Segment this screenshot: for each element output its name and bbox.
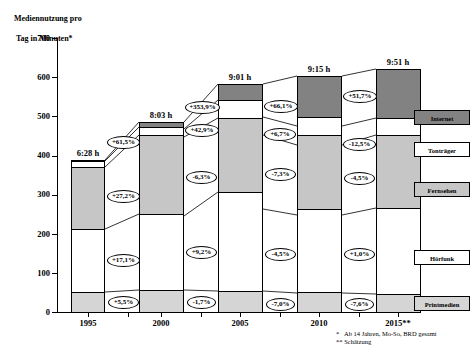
y-tick-label-100: 100 bbox=[18, 269, 50, 277]
x-tick-2005 bbox=[240, 313, 241, 317]
bubble-printmedien-2000-2005: -1,7% bbox=[187, 296, 216, 309]
bar-2005-segment-hoerfunk bbox=[218, 192, 263, 292]
x-tick-2015 bbox=[398, 313, 399, 317]
x-axis-label-2000: 2000 bbox=[131, 318, 191, 328]
y-tick-500 bbox=[52, 116, 57, 117]
bar-2005-segment-tontraeger bbox=[218, 100, 263, 119]
footnote-dstar-text: Schätzung bbox=[344, 338, 371, 345]
bubble-hoerfunk-2010-2015: +1,0% bbox=[344, 248, 375, 261]
bar-2010-segment-internet bbox=[297, 76, 342, 118]
plot-area: 1995 2000 2005 2010 2015** 6:28 h 8:03 h… bbox=[57, 38, 410, 313]
y-axis-line bbox=[57, 38, 58, 313]
y-tick-label-600: 600 bbox=[18, 73, 50, 81]
bar-2000-segment-printmedien bbox=[139, 290, 184, 313]
bar-2000 bbox=[139, 38, 184, 313]
total-label-2005: 9:01 h bbox=[210, 72, 270, 82]
x-tick-minor-2 bbox=[201, 313, 202, 317]
bar-2000-segment-hoerfunk bbox=[139, 214, 184, 291]
bubble-tontraeger-2000-2005: +42,9% bbox=[185, 124, 219, 137]
x-tick-minor-4 bbox=[359, 313, 360, 317]
legend-item-tontraeger[interactable]: Tonträger bbox=[414, 142, 470, 157]
bar-2000-segment-fernsehen bbox=[139, 135, 184, 215]
total-label-2010: 9:15 h bbox=[289, 64, 349, 74]
bar-2010-segment-fernsehen bbox=[297, 135, 342, 210]
footnote-dstar-marker: ** bbox=[336, 338, 343, 345]
y-tick-100 bbox=[52, 273, 57, 274]
y-tick-300 bbox=[52, 195, 57, 196]
y-tick-label-700: 700 bbox=[18, 34, 50, 42]
bubble-hoerfunk-2000-2005: +9,2% bbox=[186, 246, 217, 259]
legend-item-internet[interactable]: Internet bbox=[414, 110, 470, 125]
bar-1995 bbox=[71, 38, 105, 313]
footnote-single-star: *Ab 14 Jahren, Mo-So, BRD gesamt bbox=[336, 330, 437, 338]
x-tick-2000 bbox=[161, 313, 162, 317]
footnote-star-text: Ab 14 Jahren, Mo-So, BRD gesamt bbox=[344, 330, 437, 337]
x-axis-label-2015: 2015** bbox=[368, 318, 428, 328]
x-axis-label-2010: 2010 bbox=[289, 318, 349, 328]
bubble-tontraeger-2005-2010: +6,7% bbox=[264, 128, 296, 141]
bubble-internet-2005-2010: +66,1% bbox=[264, 100, 298, 113]
x-tick-minor-1 bbox=[128, 313, 129, 317]
bar-2010-segment-printmedien bbox=[297, 292, 342, 313]
bar-1995-segment-hoerfunk bbox=[71, 229, 105, 293]
bar-2015 bbox=[376, 38, 421, 313]
y-tick-700 bbox=[52, 38, 57, 39]
bar-1995-segment-printmedien bbox=[71, 292, 105, 313]
bubble-total-1995-2000: +61,5% bbox=[107, 136, 140, 149]
footnotes: *Ab 14 Jahren, Mo-So, BRD gesamt ** Schä… bbox=[336, 330, 437, 346]
x-tick-1995 bbox=[88, 313, 89, 317]
legend-item-printmedien[interactable]: Printmedien bbox=[414, 296, 470, 311]
y-tick-label-400: 400 bbox=[18, 151, 50, 159]
bubble-internet-2000-2005: +353,9% bbox=[185, 101, 220, 114]
legend-item-hoerfunk[interactable]: Hörfunk bbox=[414, 250, 470, 265]
bar-1995-segment-fernsehen bbox=[71, 167, 105, 230]
bubble-printmedien-2010-2015: -7,6% bbox=[345, 298, 374, 311]
x-axis-label-2005: 2005 bbox=[210, 318, 270, 328]
legend-item-fernsehen[interactable]: Fernsehen bbox=[414, 182, 470, 197]
y-tick-label-300: 300 bbox=[18, 190, 50, 198]
footnote-double-star: ** Schätzung bbox=[336, 338, 437, 346]
bar-2005-segment-internet bbox=[218, 84, 263, 101]
bar-2010-segment-hoerfunk bbox=[297, 209, 342, 293]
bubble-fernsehen-2000-2005: -6,3% bbox=[186, 171, 217, 184]
y-tick-label-0: 0 bbox=[18, 308, 50, 316]
bar-2010-segment-tontraeger bbox=[297, 117, 342, 136]
y-tick-label-200: 200 bbox=[18, 230, 50, 238]
total-label-2015: 9:51 h bbox=[368, 57, 428, 67]
bar-2005-segment-fernsehen bbox=[218, 118, 263, 193]
bubble-fernsehen-1995-2000: +27,2% bbox=[107, 190, 140, 203]
bar-2005-segment-printmedien bbox=[218, 291, 263, 313]
chart-title-line1: Mediennutzung pro bbox=[14, 14, 82, 23]
x-tick-2010 bbox=[319, 313, 320, 317]
y-tick-200 bbox=[52, 234, 57, 235]
bubble-printmedien-2005-2010: -7,0% bbox=[266, 298, 295, 311]
total-label-1995: 6:28 h bbox=[58, 148, 118, 158]
bubble-tontraeger-2010-2015: -12,5% bbox=[343, 138, 376, 151]
x-axis-label-1995: 1995 bbox=[58, 318, 118, 328]
bubble-fernsehen-2005-2010: -7,3% bbox=[265, 168, 296, 181]
y-tick-0 bbox=[52, 312, 57, 313]
bubble-printmedien-1995-2000: +5,5% bbox=[108, 296, 139, 309]
bubble-hoerfunk-1995-2000: +17,1% bbox=[107, 254, 140, 267]
x-tick-minor-3 bbox=[280, 313, 281, 317]
footnote-star-marker: * bbox=[336, 330, 344, 338]
chart-root: Mediennutzung pro Tag in Minuten* 700 60… bbox=[0, 0, 474, 354]
y-tick-label-500: 500 bbox=[18, 112, 50, 120]
bubble-fernsehen-2010-2015: -4,5% bbox=[344, 172, 375, 185]
total-label-2000: 8:03 h bbox=[131, 110, 191, 120]
bubble-hoerfunk-2005-2010: -4,5% bbox=[265, 248, 296, 261]
bubble-internet-2010-2015: +51,7% bbox=[343, 90, 377, 103]
y-tick-600 bbox=[52, 77, 57, 78]
y-tick-400 bbox=[52, 156, 57, 157]
bar-2010 bbox=[297, 38, 342, 313]
